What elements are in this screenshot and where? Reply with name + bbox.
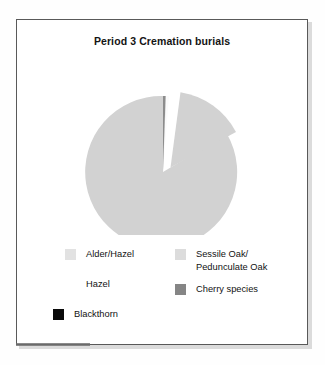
legend-column-left: Alder/Hazel Hazel Blackthorn [53,248,173,338]
legend-label-blackthorn: Blackthorn [74,308,118,321]
figure-frame: Period 3 Cremation burials [16,19,308,345]
pie-chart-plot-area [17,50,309,235]
legend-column-right: Sessile Oak/ Pedunculate Oak Cherry spec… [175,248,305,309]
legend-label-sessile-pedunculate-oak: Sessile Oak/ Pedunculate Oak [196,248,267,273]
pie-chart-svg [17,50,309,235]
legend-item-alder-hazel[interactable]: Alder/Hazel [65,248,173,264]
scan-smudge [16,343,90,346]
legend-item-blackthorn[interactable]: Blackthorn [53,308,173,324]
scanned-page: Period 3 Cremation burials [0,0,325,365]
legend-label-cherry-species: Cherry species [196,283,258,296]
legend-label-alder-hazel: Alder/Hazel [86,248,134,261]
legend-swatch-alder-hazel [65,249,76,260]
legend-item-cherry-species[interactable]: Cherry species [175,283,305,299]
legend-swatch-cherry-species [175,284,186,295]
legend-label-hazel: Hazel [86,278,110,291]
legend-swatch-hazel [65,279,76,290]
legend-swatch-sessile-pedunculate-oak [175,249,186,260]
legend-swatch-blackthorn [53,309,64,320]
chart-title: Period 3 Cremation burials [17,35,307,47]
chart-legend: Alder/Hazel Hazel Blackthorn Sessile Oak… [17,248,309,328]
legend-item-sessile-pedunculate-oak[interactable]: Sessile Oak/ Pedunculate Oak [175,248,305,273]
legend-item-hazel[interactable]: Hazel [65,278,173,294]
